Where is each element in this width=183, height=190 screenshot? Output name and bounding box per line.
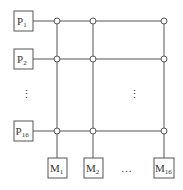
- processor-label-p1: P1: [17, 15, 27, 29]
- horizontal-ellipsis-memories: …: [121, 162, 132, 174]
- crosspoint-switch-icon: [90, 56, 96, 62]
- vertical-ellipsis-grid: ⋮: [129, 88, 140, 100]
- memory-label-m16: M16: [155, 162, 172, 176]
- crosspoint-switch-icon: [161, 128, 167, 134]
- processor-label-p16: P16: [16, 125, 30, 139]
- memory-label-m1: M1: [50, 162, 64, 176]
- vertical-ellipsis-processors: ⋮: [21, 88, 32, 100]
- crosspoint-switch-icon: [161, 56, 167, 62]
- processor-label-p2: P2: [17, 53, 27, 67]
- crosspoint-switch-icon: [161, 18, 167, 24]
- memory-label-m2: M2: [86, 162, 100, 176]
- crosspoint-switch-icon: [54, 128, 60, 134]
- crosspoint-switch-icon: [90, 18, 96, 24]
- crosspoint-switch-icon: [54, 18, 60, 24]
- crosspoint-switch-icon: [90, 128, 96, 134]
- crossbar-diagram: P1 P2 P16 M1 M2 M16 ⋮ ⋮ …: [0, 0, 183, 190]
- crosspoint-switch-icon: [54, 56, 60, 62]
